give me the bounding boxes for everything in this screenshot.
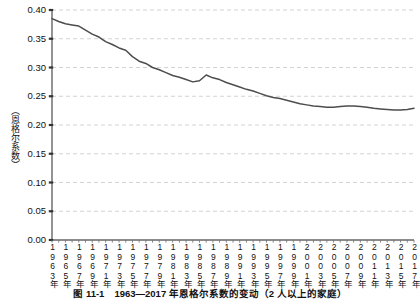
x-tick-label: 2015年 (396, 242, 405, 289)
x-tick-label: 1977年 (141, 242, 150, 289)
figure-container: （恩格尔系数） 0.400.350.300.250.200.150.100.05… (0, 0, 420, 300)
x-tick-label: 1979年 (155, 242, 164, 289)
x-tick-label: 1993年 (249, 242, 258, 289)
x-tick-label: 1999年 (289, 242, 298, 289)
x-tick-label: 1989年 (222, 242, 231, 289)
data-series-line (52, 19, 414, 110)
x-tick-label: 2007年 (342, 242, 351, 289)
x-tick-label: 1987年 (208, 242, 217, 289)
figure-caption: 图 11-1 1963—2017 年恩格尔系数的变动（2 人以上的家庭） (0, 288, 420, 300)
x-tick-label: 1965年 (61, 242, 70, 289)
x-tick-label: 1981年 (168, 242, 177, 289)
x-tick-label: 1995年 (262, 242, 271, 289)
x-tick-label: 1963年 (48, 242, 57, 289)
x-axis-tick-labels: 1963年1965年1967年1969年1971年1973年1975年1977年… (0, 242, 420, 286)
x-tick-label: 1971年 (101, 242, 110, 289)
x-tick-label: 1967年 (74, 242, 83, 289)
x-tick-label: 1975年 (128, 242, 137, 289)
x-tick-label: 2003年 (316, 242, 325, 289)
x-tick-label: 1969年 (88, 242, 97, 289)
x-tick-label: 1985年 (195, 242, 204, 289)
x-tick-label: 2011年 (369, 242, 378, 289)
x-tick-label: 1983年 (182, 242, 191, 289)
x-tick-label: 1997年 (275, 242, 284, 289)
x-tick-label: 2017年 (410, 242, 419, 289)
x-tick-label: 1991年 (235, 242, 244, 289)
x-tick-label: 2001年 (302, 242, 311, 289)
x-tick-label: 2005年 (329, 242, 338, 289)
x-tick-label: 2009年 (356, 242, 365, 289)
x-tick-label: 2013年 (383, 242, 392, 289)
x-tick-label: 1973年 (115, 242, 124, 289)
